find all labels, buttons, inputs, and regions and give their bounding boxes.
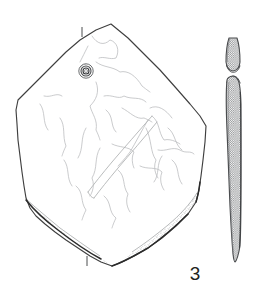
profile-section-view: [226, 38, 241, 262]
figure-container: 3: [0, 0, 260, 306]
illustration-canvas: [0, 0, 260, 306]
figure-number-label: 3: [182, 263, 208, 285]
profile-lower-segment: [226, 76, 241, 262]
profile-upper-segment: [226, 38, 240, 71]
drilled-perforation: [79, 64, 93, 78]
plan-view: [16, 24, 206, 266]
